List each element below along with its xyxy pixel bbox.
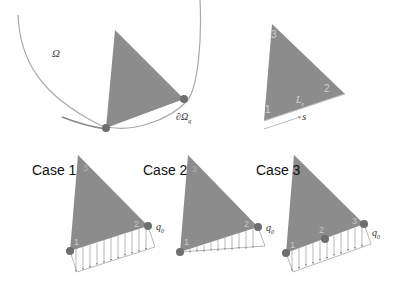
case-1-node-1-label: 1 xyxy=(74,237,79,247)
domain-panel xyxy=(18,0,201,132)
case-1-load-label: q0 xyxy=(156,221,164,234)
element-node-3-label: 3 xyxy=(271,29,277,40)
loaded-boundary-segment xyxy=(62,117,106,129)
case-2-node-3-label: 3 xyxy=(192,164,197,174)
case-1-diagram xyxy=(66,155,155,272)
case-3-node-1-label: 1 xyxy=(290,240,295,250)
case-2-title: Case 2 xyxy=(143,162,187,178)
element-node-1-label: 1 xyxy=(265,104,271,115)
case-2-load-label: q0 xyxy=(266,222,274,235)
case-2-node-1-label: 1 xyxy=(184,237,189,247)
boundary-subscript: q xyxy=(188,118,191,124)
s-coordinate-label: s xyxy=(302,110,306,122)
boundary-label: ∂Ωq xyxy=(176,111,191,124)
domain-omega-label: Ω xyxy=(52,47,60,59)
element-node-2-label: 2 xyxy=(324,83,330,94)
load-subscript: 0 xyxy=(377,234,380,240)
boundary-node xyxy=(180,95,188,103)
figure-graphics xyxy=(0,0,399,284)
boundary-node xyxy=(102,124,110,132)
edge-length-subscript: e xyxy=(302,101,305,107)
case-2-diagram xyxy=(176,155,265,256)
load-subscript: 0 xyxy=(161,228,164,234)
load-subscript: 0 xyxy=(271,229,274,235)
case-3-node-2-label: 2 xyxy=(319,225,324,235)
case-3-load-label: q0 xyxy=(372,227,380,240)
case-3-node-3-label: 3 xyxy=(352,216,357,226)
case-2-node-2-label: 2 xyxy=(244,219,249,229)
case-1-node-2-label: 2 xyxy=(134,219,139,229)
case-1-title: Case 1 xyxy=(32,162,76,178)
edge-length-label: Le xyxy=(296,94,304,107)
case-1-node-3-label: 3 xyxy=(83,163,88,173)
case-3-title: Case 3 xyxy=(256,162,300,178)
fem-boundary-load-figure: Ω ∂Ωq 3 1 2 Le s Case 1 3 1 2 q0 Case 2 … xyxy=(0,0,399,284)
boundary-symbol: ∂Ω xyxy=(176,111,188,122)
